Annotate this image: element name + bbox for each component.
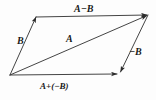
label-minus-b: −B	[129, 47, 142, 57]
vector-a-plus-minus-b-bottom-line	[10, 74, 117, 75]
label-b: B	[17, 36, 24, 46]
label-a-plus-minus-b: A+(−B)	[40, 82, 69, 91]
label-a-minus-b: A−B	[74, 4, 93, 14]
vector-a-minus-b-top-line	[36, 15, 147, 17]
vector-b-left-line	[10, 17, 36, 75]
vector-minus-b-right-line	[121, 15, 149, 72]
label-a: A	[66, 34, 73, 44]
vector-diagram-figure: A−B B A −B A+(−B)	[0, 0, 156, 100]
vector-a-diagonal-line	[10, 16, 147, 76]
